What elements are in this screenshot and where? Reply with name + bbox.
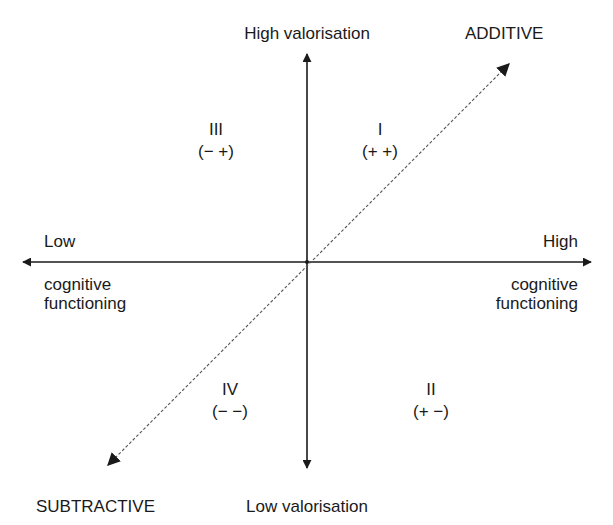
origin-point <box>305 260 309 264</box>
quadrant-numeral: III <box>176 119 256 141</box>
quadrant-signs: (+ −) <box>391 401 471 423</box>
quadrant-numeral: I <box>340 119 420 141</box>
quadrant-diagram: High valorisation ADDITIVE Low cognitive… <box>0 0 613 525</box>
low-valorisation-label: Low valorisation <box>222 497 392 517</box>
quadrant-ii: II (+ −) <box>391 379 471 423</box>
high-valorisation-label: High valorisation <box>222 24 392 44</box>
quadrant-signs: (+ +) <box>340 141 420 163</box>
quadrant-iii: III (− +) <box>176 119 256 163</box>
high-label: High <box>480 232 578 252</box>
diagram-lines <box>0 0 613 525</box>
quadrant-signs: (− −) <box>190 401 270 423</box>
left-functioning-label: functioning <box>44 294 126 314</box>
quadrant-i: I (+ +) <box>340 119 420 163</box>
additive-label: ADDITIVE <box>465 24 543 44</box>
quadrant-numeral: IV <box>190 379 270 401</box>
quadrant-iv: IV (− −) <box>190 379 270 423</box>
right-functioning-label: functioning <box>480 294 578 314</box>
subtractive-label: SUBTRACTIVE <box>36 497 155 517</box>
right-cognitive-label: cognitive <box>480 275 578 295</box>
quadrant-signs: (− +) <box>176 141 256 163</box>
low-label: Low <box>44 232 75 252</box>
left-cognitive-label: cognitive <box>44 275 111 295</box>
quadrant-numeral: II <box>391 379 471 401</box>
